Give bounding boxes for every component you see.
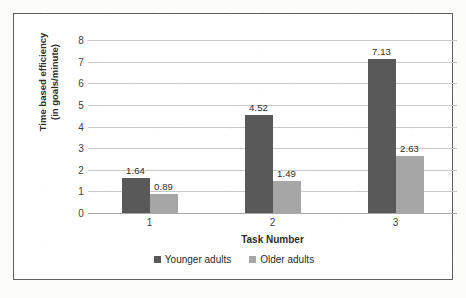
x-axis-tick-label: 1 bbox=[147, 217, 153, 228]
bar-group: 1.640.89 bbox=[122, 40, 178, 213]
bar-older-adults[interactable] bbox=[150, 194, 178, 213]
y-axis-tick-label: 5 bbox=[58, 99, 84, 110]
legend-label: Older adults bbox=[260, 254, 314, 265]
x-axis-tick-labels: 123 bbox=[88, 217, 457, 233]
y-axis-tick-label: 3 bbox=[58, 143, 84, 154]
bar-value-label: 7.13 bbox=[372, 46, 391, 57]
legend-label: Younger adults bbox=[165, 254, 231, 265]
bar-value-label: 1.49 bbox=[277, 168, 296, 179]
bar-younger-adults[interactable] bbox=[245, 115, 273, 213]
legend-item[interactable]: Younger adults bbox=[154, 254, 231, 265]
y-axis-title-line1: Time based efficiency bbox=[37, 2, 49, 162]
y-axis-tick-label: 0 bbox=[58, 208, 84, 219]
page-background: Time based efficiency (in goals/minute) … bbox=[0, 0, 466, 298]
bar-value-label: 4.52 bbox=[249, 102, 268, 113]
y-axis-tick-label: 7 bbox=[58, 56, 84, 67]
bar-younger-adults[interactable] bbox=[122, 178, 150, 213]
chart-legend: Younger adultsOlder adults bbox=[14, 254, 454, 265]
y-axis-tick-labels: 012345678 bbox=[54, 40, 84, 213]
legend-item[interactable]: Older adults bbox=[249, 254, 314, 265]
bar-older-adults[interactable] bbox=[396, 156, 424, 213]
legend-swatch-icon bbox=[249, 256, 256, 263]
x-axis-title: Task Number bbox=[88, 234, 457, 245]
bar-group: 4.521.49 bbox=[245, 40, 301, 213]
y-axis-tick-label: 4 bbox=[58, 121, 84, 132]
bar-value-label: 2.63 bbox=[400, 143, 419, 154]
chart-frame: Time based efficiency (in goals/minute) … bbox=[13, 13, 453, 280]
y-axis-tick-label: 1 bbox=[58, 186, 84, 197]
axis-baseline bbox=[88, 213, 457, 214]
y-axis-tick-label: 2 bbox=[58, 164, 84, 175]
bar-group: 7.132.63 bbox=[368, 40, 424, 213]
plot-area: 1.640.894.521.497.132.63 bbox=[88, 40, 457, 213]
x-axis-tick-label: 3 bbox=[393, 217, 399, 228]
bar-value-label: 0.89 bbox=[154, 181, 173, 192]
bar-younger-adults[interactable] bbox=[368, 59, 396, 213]
bar-older-adults[interactable] bbox=[273, 181, 301, 213]
y-axis-tick-label: 6 bbox=[58, 78, 84, 89]
legend-swatch-icon bbox=[154, 256, 161, 263]
bar-value-label: 1.64 bbox=[126, 165, 145, 176]
x-axis-tick-label: 2 bbox=[270, 217, 276, 228]
y-axis-tick-label: 8 bbox=[58, 35, 84, 46]
